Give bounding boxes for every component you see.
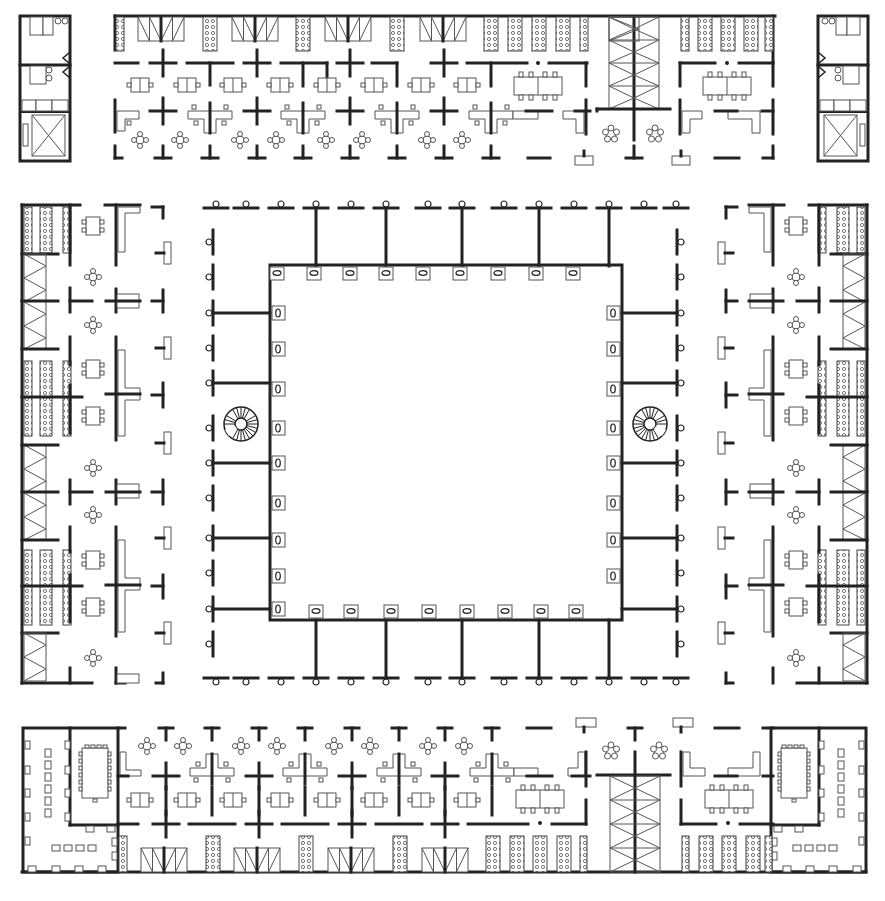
- central-atrium: [204, 201, 688, 685]
- right-office-wing: [718, 205, 867, 683]
- top-right-service-core: [818, 16, 868, 161]
- stair-tower: [610, 776, 660, 872]
- stair-tower: [24, 633, 46, 681]
- bottom-office-wing: [22, 718, 866, 872]
- conference-room-right: [771, 728, 866, 872]
- elevator-icon: [23, 115, 65, 156]
- spiral-stair-right: [633, 407, 667, 441]
- top-left-service-core: [20, 16, 70, 161]
- spiral-stair-left: [224, 407, 258, 441]
- floor-plan: [0, 0, 885, 901]
- left-office-wing: [22, 205, 171, 683]
- conference-room-left: [23, 728, 118, 872]
- top-office-wing: [115, 16, 775, 165]
- elevator-icon: [824, 115, 865, 156]
- stair-tower: [597, 17, 670, 140]
